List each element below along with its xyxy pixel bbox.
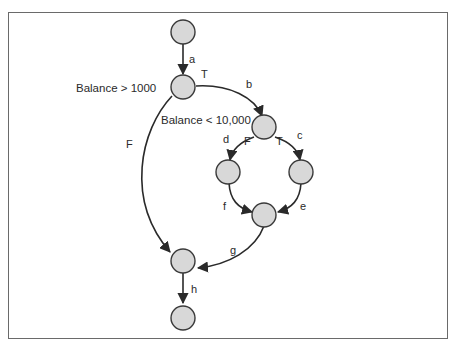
edge-h-label: h xyxy=(191,283,197,295)
edge-a-label: a xyxy=(189,53,196,65)
edge-e-label: e xyxy=(300,200,306,212)
edge-f-label: f xyxy=(223,200,227,212)
edge-e xyxy=(278,183,301,212)
node-end xyxy=(171,306,195,330)
node-start xyxy=(171,20,195,44)
edge-g-label: g xyxy=(230,244,236,256)
node-outer-join xyxy=(171,249,195,273)
control-flow-graph: Balance > 1000 Balance < 10,000 a T b F … xyxy=(0,0,458,348)
outer-true-label: T xyxy=(201,68,208,80)
outer-false-label: F xyxy=(126,138,133,150)
node-c-branch xyxy=(289,160,313,184)
edge-d-label: d xyxy=(223,133,229,145)
node-decision-outer xyxy=(171,75,195,99)
edge-b-label: b xyxy=(246,78,252,90)
condition-outer-label: Balance > 1000 xyxy=(76,82,156,94)
edge-f xyxy=(229,183,252,212)
node-inner-join xyxy=(252,203,276,227)
edge-c-label: c xyxy=(297,129,303,141)
node-decision-inner xyxy=(252,115,276,139)
condition-inner-label: Balance < 10,000 xyxy=(161,114,251,126)
inner-true-label: T xyxy=(276,135,283,147)
edge-b xyxy=(196,86,262,116)
inner-false-label: F xyxy=(244,135,251,147)
node-d-branch xyxy=(216,160,240,184)
